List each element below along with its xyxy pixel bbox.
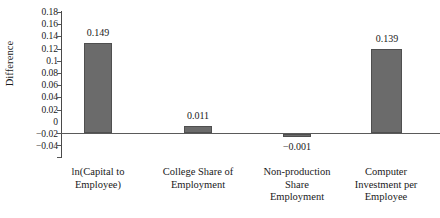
y-tick-label: 0.02 [24,106,58,116]
x-axis-label-capital-to-employee: ln(Capital to Employee) [53,166,143,191]
y-tick-label: 0.08 [24,69,58,79]
bar-nonproduction-share[interactable] [283,134,311,137]
y-tick-label: 0.06 [24,81,58,91]
y-tick-label: 0.16 [24,20,58,30]
y-tick-label: 0.1 [24,57,58,67]
y-tick-label: 0 [24,118,58,128]
y-tick-label: 0.18 [24,8,58,18]
bar-value-label: 0.139 [357,33,417,44]
y-tick-label: 0.14 [24,32,58,42]
bar-computer-investment[interactable] [371,49,402,133]
x-axis-label-college-share: College Share of Employment [150,166,246,191]
y-tick-label: −0.04 [24,142,58,152]
y-axis-title: Difference [4,24,15,104]
bar-college-share[interactable] [184,126,212,133]
y-tick-label: 0.12 [24,45,58,55]
y-tick-label: 0.04 [24,93,58,103]
bar-value-label: 0.149 [68,27,128,38]
bar-value-label: −0.001 [267,141,327,152]
bar-capital-to-employee[interactable] [84,43,112,133]
bar-value-label: 0.011 [168,110,228,121]
y-axis-line [61,11,62,158]
bar-chart: Difference 0.18 0.16 0.14 0.12 0.1 0.08 … [0,0,440,218]
y-tick-label: −0.02 [24,130,58,140]
x-axis-label-computer-investment: Computer Investment per Employee [338,166,434,204]
zero-baseline [61,133,440,134]
x-axis-label-nonproduction-share: Non-production Share Employment [249,166,345,204]
